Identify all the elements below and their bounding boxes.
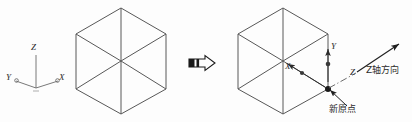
left-cube-edge-lower-left (76, 61, 121, 89)
axis-z-label: Z (31, 43, 36, 52)
left-cube-edge-upper-right (121, 34, 166, 61)
right-cube (238, 8, 328, 114)
figure-container: Z X Y Y X Z Z轴方向 新原点 (0, 0, 412, 122)
new-axis-y-marker (326, 62, 331, 67)
transform-arrow-tail-fill (189, 59, 195, 67)
axis-x-label: X (59, 73, 65, 82)
left-cube-edge-lower-right (121, 61, 166, 89)
new-axis-x-label: X (285, 62, 291, 71)
left-cube (76, 8, 166, 114)
new-axis-x-marker (300, 71, 304, 75)
z-axis-direction-label: Z轴方向 (366, 66, 399, 75)
new-origin-label: 新原点 (329, 105, 356, 114)
axis-y-endpoint-marker (15, 79, 19, 83)
new-axis-y-label: Y (331, 42, 336, 51)
left-cube-edge-upper-left (76, 34, 121, 61)
right-cube-edge-upper-left (238, 34, 283, 61)
new-ucs-axes (288, 49, 331, 92)
axis-y-line (16, 81, 36, 88)
transform-arrow (189, 56, 215, 71)
right-cube-edge-lower-left (238, 61, 283, 89)
right-cube-edge-upper-right (283, 34, 328, 61)
left-axis-triad (15, 55, 60, 91)
axis-y-label: Y (6, 73, 11, 82)
axis-x-line (36, 81, 58, 88)
new-axis-x-line (288, 64, 325, 87)
transform-arrow-tail-band (197, 59, 200, 67)
new-axis-z-label: Z (350, 68, 355, 77)
